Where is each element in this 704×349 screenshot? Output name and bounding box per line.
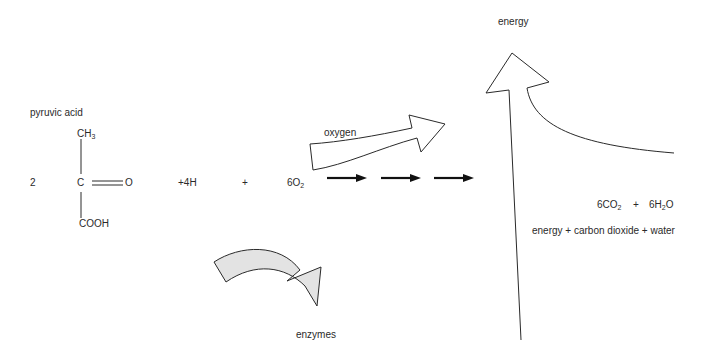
plus-sign-1: + (242, 178, 248, 188)
o2-formula: 6O2 (287, 178, 304, 189)
pyruvic-acid-label: pyruvic acid (30, 108, 83, 118)
cooh-group: COOH (79, 219, 109, 229)
co2-formula: 6CO2 (597, 200, 621, 211)
h2o-formula: 6H2O (649, 200, 673, 211)
energy-arrow-icon (486, 53, 674, 340)
enzymes-label: enzymes (296, 330, 336, 340)
oxygen-label: oxygen (324, 128, 356, 138)
ch3-group: CH3 (77, 129, 95, 140)
oxygen-atom: O (125, 178, 133, 188)
plus-sign-2: + (633, 200, 639, 210)
reaction-arrows (327, 174, 474, 182)
energy-label: energy (498, 17, 529, 27)
word-equation: energy + carbon dioxide + water (532, 226, 675, 236)
coefficient-2: 2 (30, 178, 36, 188)
diagram-art (0, 0, 704, 349)
plus-4h: +4H (178, 178, 197, 188)
carbon-atom: C (77, 178, 84, 188)
oxygen-arrow-icon (310, 115, 445, 170)
enzymes-arrow-icon (214, 249, 321, 306)
